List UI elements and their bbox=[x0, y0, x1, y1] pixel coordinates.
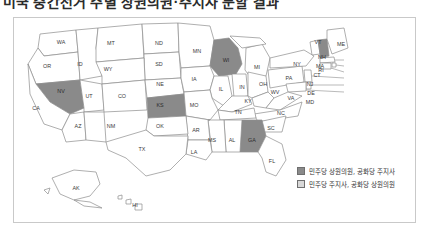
state-label-TN: TN bbox=[234, 109, 241, 115]
state-label-VT: VT bbox=[315, 39, 323, 45]
state-label-AZ: AZ bbox=[75, 123, 83, 129]
state-label-DE: DE bbox=[307, 90, 315, 96]
state-label-NJ: NJ bbox=[307, 81, 314, 87]
legend-swatch-dark bbox=[297, 167, 305, 175]
state-label-CO: CO bbox=[118, 93, 126, 99]
state-NY bbox=[270, 50, 314, 68]
state-label-SC: SC bbox=[267, 125, 275, 131]
state-label-OK: OK bbox=[156, 123, 164, 129]
state-label-IL: IL bbox=[219, 86, 224, 92]
state-label-MD: MD bbox=[306, 99, 314, 105]
page-title: 미국 중간선거 주별 상원의원·주지사 분할 결과 bbox=[0, 0, 429, 13]
state-label-OH: OH bbox=[259, 81, 267, 87]
state-label-WA: WA bbox=[57, 39, 66, 45]
state-label-MN: MN bbox=[193, 48, 201, 54]
state-label-MO: MO bbox=[190, 102, 199, 108]
state-label-MS: MS bbox=[208, 137, 216, 143]
state-label-NC: NC bbox=[277, 110, 285, 116]
state-label-UT: UT bbox=[85, 93, 93, 99]
state-MT bbox=[96, 24, 144, 62]
state-MN bbox=[178, 23, 214, 68]
map-legend: 민주당 상원의원, 공화당 주지사 민주당 주지사, 공화당 상원의원 bbox=[297, 166, 409, 192]
legend-swatch-light bbox=[297, 180, 305, 188]
state-label-TX: TX bbox=[139, 146, 146, 152]
state-AL bbox=[224, 120, 242, 152]
legend-item-dem-governor-rep-senator: 민주당 주지사, 공화당 상원의원 bbox=[297, 179, 409, 189]
state-HI-2 bbox=[126, 199, 131, 204]
state-OK bbox=[146, 116, 188, 136]
state-label-NY: NY bbox=[293, 61, 301, 67]
state-label-AK: AK bbox=[72, 185, 80, 191]
state-label-MI: MI bbox=[254, 64, 260, 70]
figure-panel: WAORIDMTNDSDMNWIMINYVTMENHWYNVUTCONEIAIL… bbox=[13, 17, 416, 223]
state-label-HI: HI bbox=[132, 202, 137, 208]
state-label-AL: AL bbox=[229, 137, 236, 143]
state-label-MT: MT bbox=[107, 40, 115, 46]
state-label-NE: NE bbox=[156, 81, 164, 87]
state-MD bbox=[286, 82, 306, 92]
state-label-IA: IA bbox=[191, 76, 196, 82]
state-ND bbox=[142, 23, 179, 54]
state-label-KY: KY bbox=[244, 98, 252, 104]
state-label-PA: PA bbox=[286, 75, 293, 81]
state-label-NH: NH bbox=[318, 54, 326, 60]
state-label-NV: NV bbox=[57, 88, 65, 94]
state-label-MA: MA bbox=[316, 63, 324, 69]
state-AK-tail bbox=[74, 200, 102, 208]
state-label-WI: WI bbox=[223, 57, 230, 63]
state-label-LA: LA bbox=[191, 149, 198, 155]
state-label-ID: ID bbox=[77, 61, 82, 67]
state-RI bbox=[332, 63, 336, 67]
state-label-WV: WV bbox=[271, 89, 280, 95]
state-label-ME: ME bbox=[337, 41, 345, 47]
legend-item-dem-senator-rep-governor: 민주당 상원의원, 공화당 주지사 bbox=[297, 166, 409, 176]
state-IA bbox=[181, 66, 214, 92]
legend-label-dem-senator-rep-governor: 민주당 상원의원, 공화당 주지사 bbox=[309, 166, 395, 176]
state-label-IN: IN bbox=[239, 84, 244, 90]
state-label-FL: FL bbox=[269, 158, 275, 164]
state-TX bbox=[106, 130, 188, 176]
state-KS bbox=[147, 94, 186, 118]
state-label-KS: KS bbox=[156, 102, 164, 108]
state-label-NM: NM bbox=[107, 123, 116, 129]
state-AK-islands bbox=[44, 188, 50, 194]
state-label-SD: SD bbox=[155, 61, 163, 67]
state-HI-1 bbox=[118, 195, 122, 199]
state-label-VA: VA bbox=[288, 95, 295, 101]
state-label-OR: OR bbox=[43, 63, 51, 69]
page-title-text: 미국 중간선거 주별 상원의원·주지사 분할 결과 bbox=[3, 0, 279, 11]
state-NM bbox=[84, 112, 106, 142]
state-label-AR: AR bbox=[192, 127, 200, 133]
state-label-CA: CA bbox=[32, 105, 40, 111]
state-label-ND: ND bbox=[155, 40, 163, 46]
state-label-WY: WY bbox=[104, 66, 113, 72]
legend-label-dem-governor-rep-senator: 민주당 주지사, 공화당 상원의원 bbox=[309, 179, 395, 189]
state-label-GA: GA bbox=[248, 137, 256, 143]
